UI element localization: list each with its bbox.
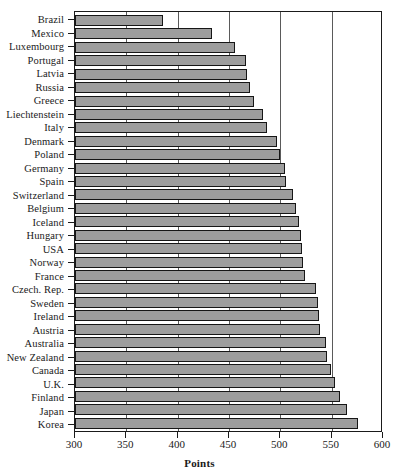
bar <box>75 163 285 174</box>
bar-row <box>75 417 381 430</box>
x-axis-title: Points <box>0 457 399 469</box>
y-axis-label: Luxembourg <box>0 40 68 53</box>
bar-row <box>75 162 381 175</box>
bar-row <box>75 14 381 27</box>
bar-row <box>75 41 381 54</box>
bar <box>75 270 305 281</box>
y-axis-label: Austria <box>0 324 68 337</box>
y-axis-label: Canada <box>0 364 68 377</box>
bar <box>75 404 347 415</box>
x-axis-tick-label: 300 <box>66 438 83 450</box>
y-axis-label: USA <box>0 243 68 256</box>
bar <box>75 283 316 294</box>
bar-row <box>75 242 381 255</box>
y-axis-label: Australia <box>0 337 68 350</box>
bar <box>75 122 267 133</box>
bar-row <box>75 390 381 403</box>
y-axis-label: Norway <box>0 256 68 269</box>
bar <box>75 149 280 160</box>
bar-row <box>75 309 381 322</box>
bar-row <box>75 135 381 148</box>
y-axis-label: U.K. <box>0 378 68 391</box>
y-axis-label: Denmark <box>0 135 68 148</box>
bar-row <box>75 323 381 336</box>
bar <box>75 69 247 80</box>
y-axis-label: Latvia <box>0 67 68 80</box>
bar <box>75 176 286 187</box>
y-axis-label: Czech. Rep. <box>0 283 68 296</box>
y-axis-label: Portugal <box>0 54 68 67</box>
bar-row <box>75 188 381 201</box>
bar <box>75 310 319 321</box>
bar-row <box>75 108 381 121</box>
x-axis-tick-label: 550 <box>322 438 339 450</box>
y-axis-label: Russia <box>0 81 68 94</box>
y-axis-label: Japan <box>0 405 68 418</box>
y-axis-label: Liechtenstein <box>0 108 68 121</box>
bar-chart-figure: BrazilMexicoLuxembourgPortugalLatviaRuss… <box>0 0 399 475</box>
bar <box>75 377 335 388</box>
y-axis-label: Sweden <box>0 297 68 310</box>
bar <box>75 189 293 200</box>
bar <box>75 55 246 66</box>
bar-row <box>75 336 381 349</box>
bar <box>75 391 340 402</box>
bar <box>75 203 296 214</box>
bar-row <box>75 148 381 161</box>
bar <box>75 216 299 227</box>
y-axis-label: Mexico <box>0 27 68 40</box>
bar <box>75 28 212 39</box>
bar <box>75 351 327 362</box>
y-axis-label: Spain <box>0 175 68 188</box>
bar <box>75 297 318 308</box>
y-axis-label: Greece <box>0 94 68 107</box>
y-axis-label: New Zealand <box>0 351 68 364</box>
y-axis-label: Hungary <box>0 229 68 242</box>
bar <box>75 82 250 93</box>
bar-row <box>75 27 381 40</box>
plot-area <box>74 11 382 432</box>
y-axis-label: Korea <box>0 418 68 431</box>
bar-row <box>75 256 381 269</box>
bar <box>75 364 331 375</box>
y-axis-label: Poland <box>0 148 68 161</box>
y-axis-label: Finland <box>0 391 68 404</box>
bar-row <box>75 95 381 108</box>
y-axis-label: Germany <box>0 162 68 175</box>
bar-row <box>75 54 381 67</box>
bar <box>75 418 358 429</box>
bar-row <box>75 121 381 134</box>
x-axis-tick-label: 450 <box>220 438 237 450</box>
bar-row <box>75 175 381 188</box>
bar-row <box>75 376 381 389</box>
x-axis-tick-label: 350 <box>117 438 134 450</box>
y-axis-category-labels: BrazilMexicoLuxembourgPortugalLatviaRuss… <box>0 11 68 432</box>
bar-series <box>75 12 381 431</box>
bar-row <box>75 215 381 228</box>
x-axis-tick-label: 400 <box>168 438 185 450</box>
y-axis-label: Belgium <box>0 202 68 215</box>
bar <box>75 42 235 53</box>
bar-row <box>75 202 381 215</box>
bar <box>75 109 263 120</box>
x-axis-tick-label: 500 <box>271 438 288 450</box>
y-axis-label: Iceland <box>0 216 68 229</box>
bar-row <box>75 363 381 376</box>
bar <box>75 243 302 254</box>
bar <box>75 96 254 107</box>
bar <box>75 337 326 348</box>
x-axis-tick-labels: 300350400450500550600 <box>0 438 399 452</box>
bar <box>75 15 163 26</box>
bar-row <box>75 68 381 81</box>
bar <box>75 324 320 335</box>
y-axis-label: Italy <box>0 121 68 134</box>
bar-row <box>75 282 381 295</box>
bar <box>75 257 303 268</box>
bar <box>75 136 277 147</box>
bar-row <box>75 403 381 416</box>
bar-row <box>75 350 381 363</box>
bar <box>75 230 301 241</box>
y-axis-label: France <box>0 270 68 283</box>
y-axis-label: Ireland <box>0 310 68 323</box>
y-axis-label: Brazil <box>0 13 68 26</box>
